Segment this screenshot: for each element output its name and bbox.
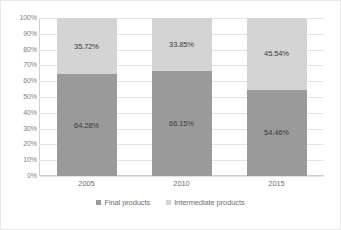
square-marker-icon [166, 200, 171, 205]
chart-legend: Final productsIntermediate products [1, 198, 340, 207]
bar-stack: 45.54%54.46% [247, 18, 307, 176]
plot-area: 35.72%64.28%33.85%66.15%45.54%54.46% [39, 18, 324, 176]
x-axis: 200520102015 [39, 179, 324, 193]
y-axis-tick-label: 30% [4, 125, 37, 133]
x-axis-tick-label: 2005 [39, 179, 134, 188]
bar-segment[interactable]: 33.85% [152, 18, 212, 71]
bar-value-label: 35.72% [74, 42, 99, 51]
x-axis-tick-label: 2010 [134, 179, 229, 188]
gridline [39, 176, 324, 177]
y-axis-tick-label: 40% [4, 109, 37, 117]
bar-group[interactable]: 33.85%66.15% [152, 18, 212, 176]
legend-item[interactable]: Final products [96, 198, 150, 207]
legend-item-label: Intermediate products [174, 198, 244, 207]
bar-value-label: 64.28% [74, 121, 99, 130]
bar-group[interactable]: 45.54%54.46% [247, 18, 307, 176]
y-axis-tick-label: 80% [4, 46, 37, 54]
stacked-bar-chart: 0%10%20%30%40%50%60%70%80%90%100% 35.72%… [0, 0, 341, 230]
square-marker-icon [96, 200, 101, 205]
y-axis-tick-label: 60% [4, 77, 37, 85]
bar-segment[interactable]: 45.54% [247, 18, 307, 90]
bar-segment[interactable]: 35.72% [57, 18, 117, 74]
y-axis: 0%10%20%30%40%50%60%70%80%90%100% [1, 18, 37, 176]
bar-segment[interactable]: 66.15% [152, 71, 212, 176]
y-axis-tick-label: 0% [4, 172, 37, 180]
bar-value-label: 45.54% [264, 49, 289, 58]
bar-stack: 33.85%66.15% [152, 18, 212, 176]
legend-item-label: Final products [104, 198, 150, 207]
y-axis-tick-label: 100% [4, 14, 37, 22]
bar-value-label: 54.46% [264, 128, 289, 137]
x-axis-tick-label: 2015 [229, 179, 324, 188]
legend-item[interactable]: Intermediate products [166, 198, 244, 207]
bar-segment[interactable]: 54.46% [247, 90, 307, 176]
y-axis-tick-label: 50% [4, 93, 37, 101]
bar-value-label: 66.15% [169, 119, 194, 128]
y-axis-tick-label: 20% [4, 140, 37, 148]
y-axis-tick-label: 90% [4, 30, 37, 38]
y-axis-tick-label: 10% [4, 156, 37, 164]
bar-stack: 35.72%64.28% [57, 18, 117, 176]
bar-segment[interactable]: 64.28% [57, 74, 117, 176]
bar-group[interactable]: 35.72%64.28% [57, 18, 117, 176]
y-axis-tick-label: 70% [4, 61, 37, 69]
bar-value-label: 33.85% [169, 40, 194, 49]
